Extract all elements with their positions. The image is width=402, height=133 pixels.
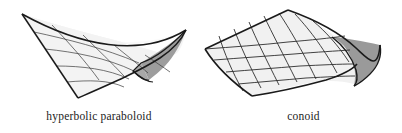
conoid-main-surface [205,10,356,96]
caption-conoid: conoid [205,110,402,122]
figure-panel: hyperbolic paraboloid conoid [0,0,402,133]
hyperbolic-paraboloid-left-panel [22,14,160,98]
hyperbolic-paraboloid-figure [22,14,186,98]
caption-hyperbolic-paraboloid: hyperbolic paraboloid [0,110,198,122]
conoid-figure [205,10,381,96]
